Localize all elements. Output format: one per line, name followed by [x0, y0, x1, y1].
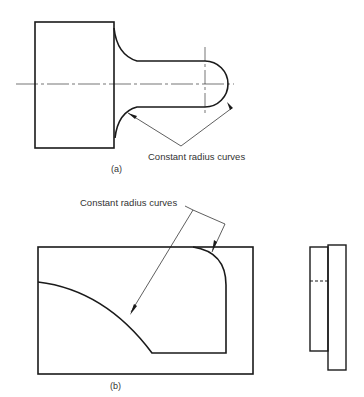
arrow-b-right — [212, 240, 217, 252]
figure-a — [16, 22, 234, 148]
side-view-left — [310, 247, 328, 351]
side-view-right — [328, 245, 346, 370]
leader-b — [131, 210, 225, 312]
caption-a: (a) — [111, 164, 122, 174]
part-b-pocket — [38, 247, 226, 353]
caption-b: (b) — [110, 381, 121, 391]
arrow-a-right — [227, 102, 233, 110]
figure-b — [38, 206, 346, 374]
leader-b-underline — [185, 206, 193, 210]
part-a-neck-head — [114, 28, 228, 138]
part-a-body — [35, 22, 114, 148]
arrow-b-left — [130, 304, 137, 315]
label-b: Constant radius curves — [80, 197, 177, 208]
part-b-plate — [38, 247, 253, 374]
leader-a — [128, 108, 232, 146]
label-a: Constant radius curves — [148, 151, 245, 162]
technical-drawing: Constant radius curves (a) Constant radi… — [0, 0, 364, 397]
